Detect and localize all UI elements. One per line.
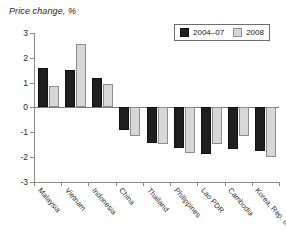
x-tick-mark — [116, 182, 117, 186]
bar-group — [254, 33, 276, 182]
bar-group — [118, 33, 140, 182]
x-tick-mark — [34, 182, 35, 186]
bar — [119, 107, 129, 129]
bar — [239, 107, 249, 135]
x-axis-label: Lao PDR — [199, 186, 226, 215]
bar-series-container — [34, 33, 279, 182]
x-tick-mark — [143, 182, 144, 186]
bar — [174, 107, 184, 148]
x-axis-label: Cambodia — [226, 186, 255, 218]
x-tick-mark — [225, 182, 226, 186]
bar — [49, 86, 59, 108]
bar — [201, 107, 211, 154]
x-tick-mark — [88, 182, 89, 186]
plot-area: 3210-1-2-3 — [34, 33, 279, 182]
y-tick-label: -1 — [20, 127, 28, 137]
bar — [92, 78, 102, 107]
x-axis-line — [34, 182, 279, 183]
bar-group — [146, 33, 168, 182]
y-tick-label: 3 — [23, 28, 28, 38]
x-tick-mark — [279, 182, 280, 186]
x-tick-mark — [197, 182, 198, 186]
y-tick-label: -2 — [20, 152, 28, 162]
bar-group — [64, 33, 86, 182]
bar — [158, 107, 168, 144]
x-tick-mark — [61, 182, 62, 186]
x-axis-label: Vietnam — [63, 186, 88, 213]
bar-group — [227, 33, 249, 182]
x-axis-label: China — [117, 186, 137, 207]
x-tick-mark — [170, 182, 171, 186]
bar-group — [91, 33, 113, 182]
x-axis-label: Korea, Rep. of — [254, 186, 286, 228]
bar — [130, 107, 140, 135]
x-axis-label: Indonesia — [90, 186, 118, 216]
bar — [185, 107, 195, 153]
x-axis-label: Philippines — [172, 186, 203, 219]
x-tick-mark — [252, 182, 253, 186]
bar — [76, 44, 86, 107]
bar — [255, 107, 265, 150]
y-tick-label: 1 — [23, 78, 28, 88]
bar — [147, 107, 157, 143]
x-axis-category-labels: MalaysiaVietnamIndonesiaChinaThailandPhi… — [34, 186, 279, 250]
price-change-bar-chart: Price change, % 2004–07 2008 3210-1-2-3 … — [0, 0, 286, 252]
y-tick-label: -3 — [20, 177, 28, 187]
y-tick-label: 2 — [23, 53, 28, 63]
bar — [228, 107, 238, 149]
y-tick-label: 0 — [23, 102, 28, 112]
bar — [65, 70, 75, 107]
bar — [38, 68, 48, 108]
bar-group — [173, 33, 195, 182]
bar-group — [200, 33, 222, 182]
x-axis-label: Thailand — [145, 186, 171, 214]
chart-axis-title: Price change, % — [9, 6, 76, 16]
bar-group — [37, 33, 59, 182]
bar — [266, 107, 276, 157]
x-axis-label: Malaysia — [36, 186, 62, 214]
bar — [212, 107, 222, 144]
bar — [103, 84, 113, 107]
